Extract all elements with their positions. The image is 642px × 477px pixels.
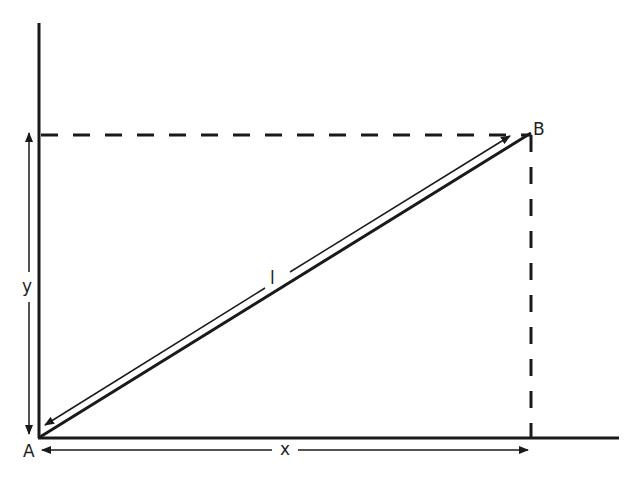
hypotenuse-arrow-upper — [290, 136, 510, 272]
point-a-label: A — [23, 443, 35, 460]
y-label: y — [22, 278, 32, 295]
point-b-label: B — [533, 121, 545, 138]
diagram-canvas — [0, 0, 642, 477]
hypotenuse-label: l — [270, 270, 275, 287]
hypotenuse-line — [40, 133, 531, 437]
x-label: x — [280, 441, 290, 458]
hypotenuse-arrow-lower — [45, 288, 265, 425]
